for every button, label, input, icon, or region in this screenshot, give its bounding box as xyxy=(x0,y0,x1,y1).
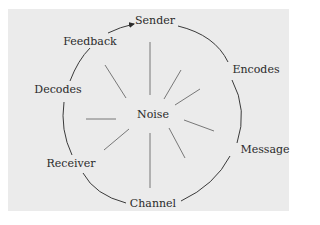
node-channel: Channel xyxy=(130,198,176,210)
edge-sender-encodes xyxy=(178,26,228,62)
edge-feedback-sender xyxy=(108,24,134,33)
edge-receiver-decodes xyxy=(63,102,72,155)
node-decodes: Decodes xyxy=(34,84,81,96)
node-message: Message xyxy=(240,144,289,156)
node-sender: Sender xyxy=(135,15,175,27)
node-receiver: Receiver xyxy=(47,158,96,170)
edge-channel-receiver xyxy=(83,173,126,203)
edge-decodes-feedback xyxy=(70,48,90,81)
center-noise: Noise xyxy=(137,109,169,121)
node-feedback: Feedback xyxy=(63,36,117,48)
edge-message-channel xyxy=(181,156,230,201)
node-encodes: Encodes xyxy=(232,64,279,76)
edge-encodes-message xyxy=(232,80,241,143)
